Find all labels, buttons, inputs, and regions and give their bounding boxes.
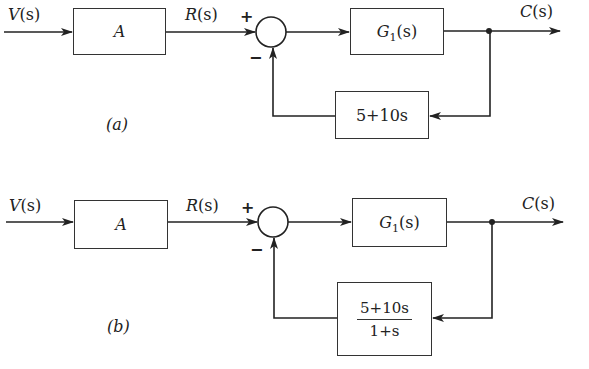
- a-gain-label: A: [114, 22, 126, 41]
- block-diagram-wires: [0, 0, 589, 369]
- b-feedback-block: 5+10s 1+s: [337, 282, 432, 356]
- a-plant-label: G1(s): [377, 22, 417, 41]
- b-input-label: V(s): [9, 198, 41, 214]
- b-feedback-fraction: 5+10s 1+s: [357, 299, 412, 340]
- a-caption: (a): [106, 117, 128, 133]
- b-gain-label: A: [115, 215, 127, 234]
- b-minus-sign: −: [250, 242, 263, 258]
- b-plant-block: G1(s): [352, 198, 447, 247]
- a-feedback-block: 5+10s: [335, 91, 429, 139]
- b-takeoff-dot: [489, 219, 495, 225]
- b-feedback-numerator: 5+10s: [357, 299, 412, 320]
- a-gain-block: A: [73, 8, 166, 55]
- a-feedback-label: 5+10s: [356, 106, 408, 125]
- b-feedback-denominator: 1+s: [370, 320, 400, 340]
- b-gain-block: A: [74, 200, 168, 249]
- b-output-label: C(s): [522, 196, 555, 212]
- b-summing-junction: [258, 207, 288, 237]
- a-minus-sign: −: [249, 50, 262, 66]
- a-plant-block: G1(s): [350, 8, 444, 55]
- b-plus-sign: +: [241, 200, 254, 216]
- b-reference-label: R(s): [186, 198, 219, 214]
- a-feedback-return: [273, 48, 335, 116]
- a-reference-label: R(s): [185, 7, 218, 23]
- b-plant-label: G1(s): [379, 213, 419, 232]
- a-summing-junction: [256, 17, 286, 47]
- b-feedback-return: [274, 238, 337, 318]
- a-output-label: C(s): [520, 4, 553, 20]
- a-takeoff-dot: [486, 28, 492, 34]
- a-plus-sign: +: [240, 9, 253, 25]
- b-caption: (b): [107, 319, 130, 335]
- a-input-label: V(s): [8, 7, 40, 23]
